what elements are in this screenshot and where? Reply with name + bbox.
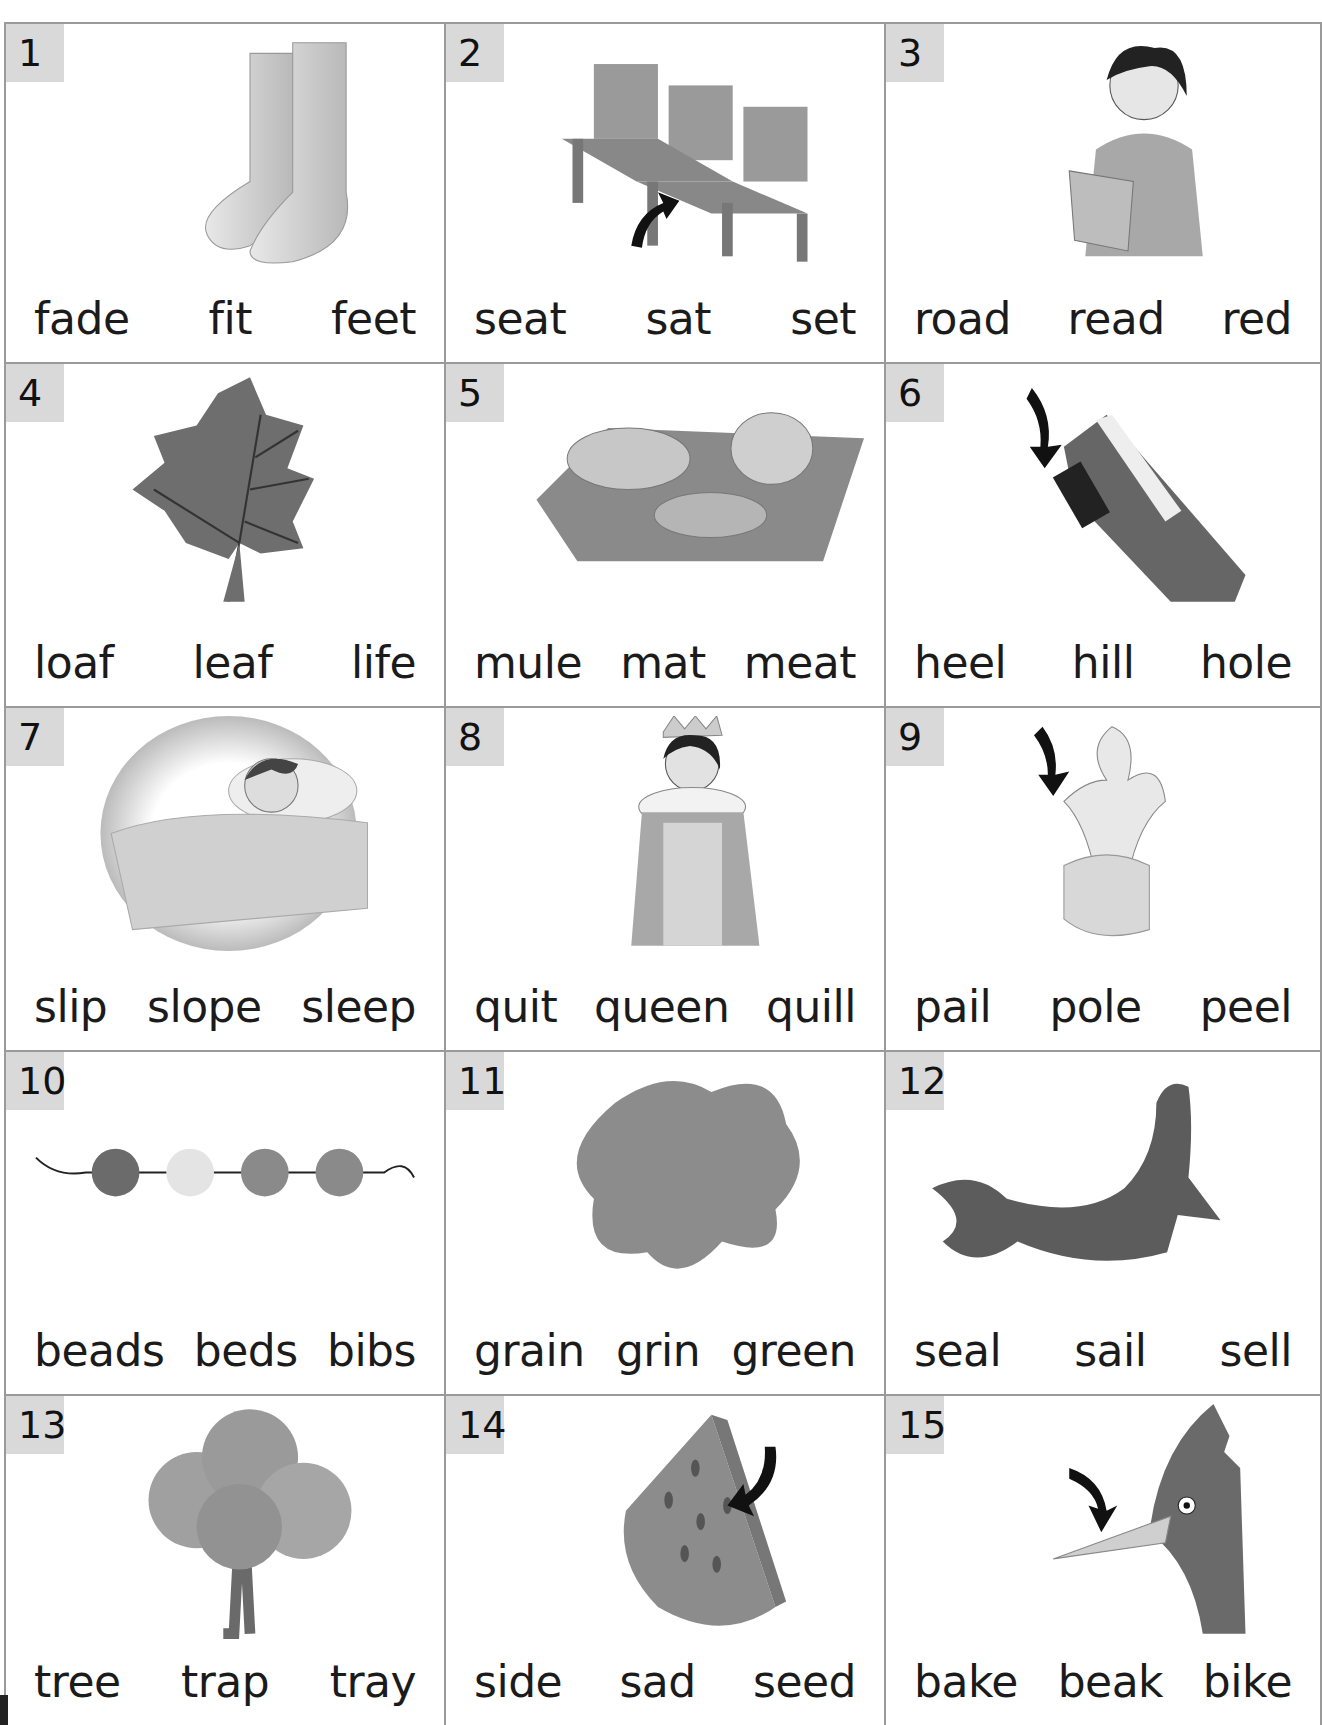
- word-option[interactable]: beads: [34, 1325, 164, 1376]
- word-option[interactable]: quit: [474, 981, 557, 1032]
- item-number: 1: [6, 24, 64, 82]
- word-choices: side sad seed: [446, 1656, 884, 1707]
- meat-icon: [516, 372, 864, 607]
- word-option[interactable]: tree: [34, 1656, 121, 1707]
- banana-peel-icon: [956, 716, 1300, 951]
- item-cell-12: 12 seal sail sell: [884, 1050, 1322, 1394]
- word-choices: slip slope sleep: [6, 981, 444, 1032]
- word-option[interactable]: seat: [474, 293, 566, 344]
- word-option[interactable]: queen: [594, 981, 729, 1032]
- item-cell-2: 2 seat sat set: [444, 22, 884, 362]
- tree-icon: [76, 1404, 424, 1639]
- word-choices: grain grin green: [446, 1325, 884, 1376]
- word-option[interactable]: road: [914, 293, 1011, 344]
- word-option[interactable]: pole: [1049, 981, 1141, 1032]
- word-option[interactable]: sell: [1220, 1325, 1292, 1376]
- word-choices: pail pole peel: [886, 981, 1320, 1032]
- seat-icon: [516, 32, 864, 267]
- item-cell-14: 14 side sad seed: [444, 1394, 884, 1725]
- item-number: 7: [6, 708, 64, 766]
- word-option[interactable]: fade: [34, 293, 129, 344]
- word-option[interactable]: green: [731, 1325, 856, 1376]
- word-option[interactable]: bibs: [327, 1325, 416, 1376]
- item-number: 5: [446, 364, 504, 422]
- word-option[interactable]: read: [1068, 293, 1165, 344]
- item-number: 9: [886, 708, 944, 766]
- item-number: 6: [886, 364, 944, 422]
- word-option[interactable]: sleep: [301, 981, 416, 1032]
- word-option[interactable]: sad: [619, 1656, 695, 1707]
- word-choices: fade fit feet: [6, 293, 444, 344]
- word-choices: bake beak bike: [886, 1656, 1320, 1707]
- item-cell-4: 4 loaf leaf life: [4, 362, 444, 706]
- item-number: 15: [886, 1396, 944, 1454]
- item-number: 11: [446, 1052, 504, 1110]
- word-option[interactable]: sat: [645, 293, 711, 344]
- word-option[interactable]: meat: [744, 637, 856, 688]
- leaf-icon: [76, 372, 424, 607]
- item-number: 3: [886, 24, 944, 82]
- queen-icon: [516, 716, 864, 951]
- word-option[interactable]: beds: [194, 1325, 298, 1376]
- item-cell-13: 13 tree trap tray: [4, 1394, 444, 1725]
- item-cell-10: 10 beads beds bibs: [4, 1050, 444, 1394]
- word-option[interactable]: fit: [209, 293, 252, 344]
- girl-reading-icon: [956, 32, 1300, 267]
- word-option[interactable]: slope: [147, 981, 262, 1032]
- word-option[interactable]: mule: [474, 637, 582, 688]
- item-cell-6: 6 heel hill hole: [884, 362, 1322, 706]
- word-option[interactable]: life: [351, 637, 416, 688]
- item-number: 2: [446, 24, 504, 82]
- word-choices: loaf leaf life: [6, 637, 444, 688]
- word-option[interactable]: seed: [753, 1656, 856, 1707]
- item-cell-7: 7 slip slope sleep: [4, 706, 444, 1050]
- word-option[interactable]: hill: [1072, 637, 1135, 688]
- word-option[interactable]: slip: [34, 981, 107, 1032]
- feet-icon: [76, 32, 424, 267]
- shoe-heel-icon: [956, 372, 1300, 607]
- word-option[interactable]: bike: [1203, 1656, 1292, 1707]
- word-option[interactable]: seal: [914, 1325, 1001, 1376]
- word-option[interactable]: bake: [914, 1656, 1018, 1707]
- word-option[interactable]: heel: [914, 637, 1006, 688]
- word-option[interactable]: grain: [474, 1325, 585, 1376]
- word-option[interactable]: mat: [620, 637, 706, 688]
- item-cell-11: 11 grain grin green: [444, 1050, 884, 1394]
- word-option[interactable]: pail: [914, 981, 991, 1032]
- watermelon-seed-icon: [516, 1404, 864, 1639]
- item-number: 13: [6, 1396, 64, 1454]
- word-option[interactable]: tray: [330, 1656, 416, 1707]
- word-choices: heel hill hole: [886, 637, 1320, 688]
- word-option[interactable]: side: [474, 1656, 562, 1707]
- word-choices: beads beds bibs: [6, 1325, 444, 1376]
- word-choices: road read red: [886, 293, 1320, 344]
- item-cell-1: 1 fade fit feet: [4, 22, 444, 362]
- word-option[interactable]: red: [1221, 293, 1292, 344]
- word-option[interactable]: set: [790, 293, 856, 344]
- word-option[interactable]: loaf: [34, 637, 114, 688]
- item-number: 14: [446, 1396, 504, 1454]
- word-option[interactable]: grin: [616, 1325, 700, 1376]
- worksheet-grid: 1 fade fit feet 2 seat sat set: [4, 22, 1322, 1725]
- word-option[interactable]: sail: [1074, 1325, 1146, 1376]
- beads-icon: [26, 1060, 424, 1295]
- page-edge-mark: [0, 1695, 8, 1725]
- word-choices: tree trap tray: [6, 1656, 444, 1707]
- word-choices: seal sail sell: [886, 1325, 1320, 1376]
- word-choices: quit queen quill: [446, 981, 884, 1032]
- item-cell-5: 5 mule mat meat: [444, 362, 884, 706]
- item-cell-9: 9 pail pole peel: [884, 706, 1322, 1050]
- word-option[interactable]: quill: [766, 981, 856, 1032]
- item-cell-15: 15 bake beak bike: [884, 1394, 1322, 1725]
- word-option[interactable]: beak: [1058, 1656, 1163, 1707]
- word-option[interactable]: feet: [331, 293, 416, 344]
- word-option[interactable]: leaf: [192, 637, 272, 688]
- seal-icon: [906, 1060, 1300, 1295]
- word-option[interactable]: trap: [181, 1656, 269, 1707]
- word-choices: mule mat meat: [446, 637, 884, 688]
- word-option[interactable]: hole: [1200, 637, 1292, 688]
- sleeping-girl-icon: [76, 716, 424, 951]
- word-option[interactable]: peel: [1200, 981, 1292, 1032]
- bird-beak-icon: [956, 1404, 1300, 1639]
- word-choices: seat sat set: [446, 293, 884, 344]
